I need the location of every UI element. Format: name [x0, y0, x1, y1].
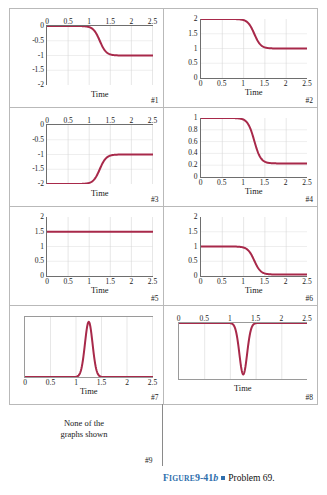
y-tick-label: -2: [38, 180, 44, 188]
curve-svg-7: [25, 317, 153, 377]
curve-svg-3: [47, 125, 153, 184]
plot-4: 10.80.60.40.2000.511.522.5Time#4: [164, 108, 318, 206]
graph-cell-3[interactable]: 0-0.5-1-1.5-200.511.522.5Time#3: [10, 108, 164, 206]
axes-2: 21.510.5000.511.522.5Time: [200, 19, 308, 79]
panel-number: #3: [151, 195, 159, 204]
x-tick-label: 1.5: [251, 315, 260, 323]
y-tick-label: 2: [194, 213, 198, 221]
curve-svg-6: [201, 217, 308, 276]
y-tick-label: 0.5: [188, 60, 197, 68]
x-tick-label: 2: [279, 315, 283, 323]
y-tick-label: 1.5: [35, 228, 44, 236]
x-tick-label: 2: [130, 18, 134, 26]
plot-canvas-4: [201, 118, 308, 177]
y-tick-label: -0.5: [32, 136, 44, 144]
y-tick-label: 0: [194, 272, 198, 280]
caption-problem-text: Problem 69.: [228, 473, 274, 483]
y-tick-label: 0: [194, 173, 198, 181]
y-tick-label: 0.5: [188, 258, 197, 266]
panel-number: #1: [151, 96, 159, 105]
panel-9-none-of-the-graphs[interactable]: None of the graphs shown #9: [9, 404, 318, 466]
graph-cell-7[interactable]: 00.511.522.5Time#7: [10, 306, 164, 404]
x-tick-label: 0: [45, 117, 49, 125]
y-tick-label: -1: [38, 52, 44, 60]
y-tick-label: 0.6: [188, 138, 197, 146]
axes-7: 00.511.522.5Time: [24, 316, 153, 378]
graph-cell-2[interactable]: 21.510.5000.511.522.5Time#2: [164, 9, 318, 107]
y-tick-label: 0: [40, 22, 44, 30]
x-axis-title: Time: [201, 285, 308, 295]
x-tick-label: 1.5: [106, 18, 115, 26]
caption-bullet-icon: [221, 476, 225, 480]
graph-grid: 0-0.5-1-1.5-200.511.522.5Time#1 21.510.5…: [9, 8, 318, 405]
x-axis-title: Time: [47, 188, 153, 198]
graph-cell-6[interactable]: 21.510.5000.511.522.5Time#6: [164, 207, 318, 305]
x-tick-label: 1: [228, 315, 232, 323]
x-tick-label: 0.5: [200, 315, 209, 323]
axes-1: 0-0.5-1-1.5-200.511.522.5Time: [46, 25, 153, 85]
y-tick-label: -1.5: [32, 166, 44, 174]
x-tick-label: 1: [87, 117, 91, 125]
axes-4: 10.80.60.40.2000.511.522.5Time: [200, 118, 308, 178]
panel-number: #2: [306, 96, 314, 105]
figure-9-41b: 0-0.5-1-1.5-200.511.522.5Time#1 21.510.5…: [0, 0, 327, 495]
y-tick-label: 1.5: [188, 30, 197, 38]
x-tick-label: 2.5: [302, 315, 311, 323]
plot-canvas-7: [25, 317, 153, 377]
plot-5: 21.510.5000.511.522.5Time#5: [10, 207, 163, 305]
y-tick-label: 0.2: [188, 161, 197, 169]
y-tick-label: -2: [38, 81, 44, 89]
curve-svg-2: [201, 19, 308, 78]
x-tick-label: 0.5: [63, 18, 72, 26]
y-tick-label: 0.5: [35, 258, 44, 266]
panel-number: #4: [306, 195, 314, 204]
y-tick-label: 1: [40, 243, 44, 251]
plot-8: 00.511.522.5Time#8: [164, 306, 318, 404]
y-tick-label: 2: [40, 213, 44, 221]
y-tick-label: 0: [194, 74, 198, 82]
x-tick-label: 0.5: [63, 117, 72, 125]
x-axis-title: Time: [201, 87, 308, 97]
y-tick-label: 1: [194, 45, 198, 53]
plot-1: 0-0.5-1-1.5-200.511.522.5Time#1: [10, 9, 163, 107]
y-tick-label: -1: [38, 151, 44, 159]
panel-number: #7: [151, 393, 159, 402]
plot-3: 0-0.5-1-1.5-200.511.522.5Time#3: [10, 108, 163, 206]
x-tick-label: 1: [87, 18, 91, 26]
none-line-1: None of the: [9, 418, 159, 429]
plot-7: 00.511.522.5Time#7: [10, 306, 163, 404]
vertical-divider: [162, 404, 163, 466]
curve-svg-4: [201, 118, 308, 177]
graph-row-2: 0-0.5-1-1.5-200.511.522.5Time#3 10.80.60…: [10, 108, 317, 207]
axes-8: 00.511.522.5Time: [178, 322, 308, 380]
graph-cell-4[interactable]: 10.80.60.40.2000.511.522.5Time#4: [164, 108, 318, 206]
plot-canvas-8: [179, 323, 308, 379]
plot-canvas-1: [47, 26, 153, 85]
y-tick-label: 2: [194, 15, 198, 23]
y-tick-label: 0.4: [188, 150, 197, 158]
plot-6: 21.510.5000.511.522.5Time#6: [164, 207, 318, 305]
x-axis-title: Time: [179, 383, 308, 393]
graph-cell-8[interactable]: 00.511.522.5Time#8: [164, 306, 318, 404]
axes-6: 21.510.5000.511.522.5Time: [200, 217, 308, 277]
plot-2: 21.510.5000.511.522.5Time#2: [164, 9, 318, 107]
x-axis-title: Time: [201, 186, 308, 196]
x-tick-label: 0: [177, 315, 181, 323]
y-tick-label: 0: [40, 121, 44, 129]
plot-canvas-2: [201, 19, 308, 78]
graph-row-1: 0-0.5-1-1.5-200.511.522.5Time#1 21.510.5…: [10, 9, 317, 108]
panel-number-9: #9: [145, 456, 153, 465]
x-axis-title: Time: [25, 386, 153, 396]
graph-cell-5[interactable]: 21.510.5000.511.522.5Time#5: [10, 207, 164, 305]
axes-3: 0-0.5-1-1.5-200.511.522.5Time: [46, 124, 153, 184]
curve-svg-5: [47, 217, 153, 276]
x-axis-title: Time: [47, 285, 153, 295]
graph-cell-1[interactable]: 0-0.5-1-1.5-200.511.522.5Time#1: [10, 9, 164, 107]
figure-caption: FIGURE9-41bProblem 69.: [163, 472, 323, 483]
x-tick-label: 2.5: [148, 117, 157, 125]
x-tick-label: 0: [45, 18, 49, 26]
panel-number: #6: [306, 294, 314, 303]
axes-5: 21.510.5000.511.522.5Time: [46, 217, 153, 277]
x-tick-label: 2: [130, 117, 134, 125]
x-tick-label: 2.5: [148, 18, 157, 26]
